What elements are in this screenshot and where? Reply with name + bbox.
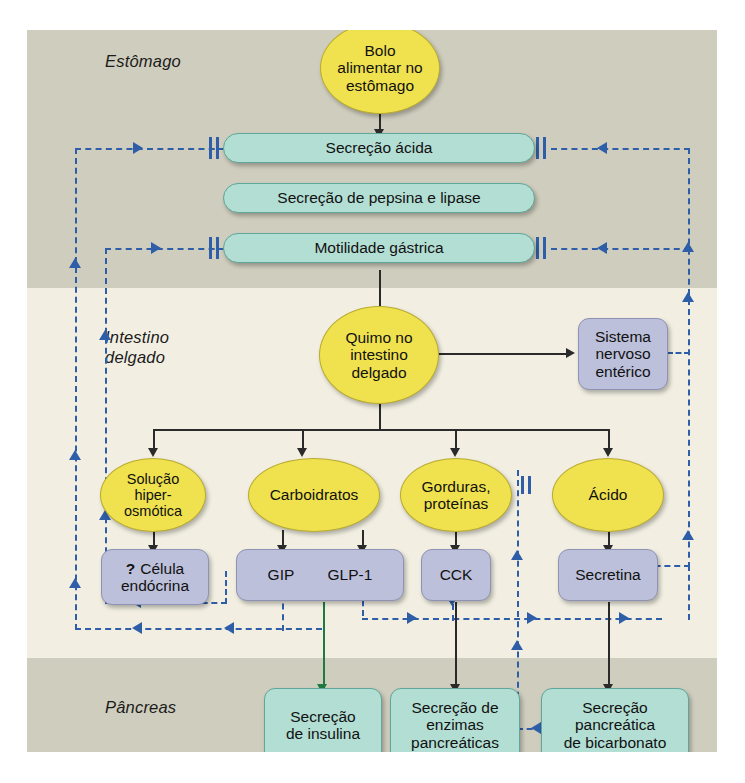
node-bolo-line3: estômago [346,77,414,94]
arrowhead-branch-acid [603,448,613,457]
node-carboidratos[interactable]: Carboidratos [248,458,380,532]
node-secrecao-acida[interactable]: Secreção ácida [223,133,535,163]
node-gip-label: GIP [268,566,295,583]
node-acido[interactable]: Ácido [552,458,664,532]
feedback-arrow-up-right-2 [682,292,694,302]
band-label-stomach: Estômago [105,52,181,71]
node-quimo-line2: intestino [350,346,408,363]
node-sne-line2: nervoso [595,345,650,362]
inhibition-bar-acid-ellipse [521,476,532,494]
feedback-to-motility [105,248,225,250]
node-bicarbonato-line2: pancreática [575,716,655,733]
feedback-arrow-up-acid-1 [511,550,523,560]
feedback-arrow-left-outer-bottom-2 [224,622,234,634]
feedback-secretina-rail-up [688,460,690,568]
node-bicarbonato-line3: de bicarbonato [564,734,667,751]
feedback-arrow-left-bicarbonate [531,722,541,734]
edge-incretins-to-insulin [323,602,325,688]
band-label-intestine-line1: Intestino [105,328,169,347]
node-incretins-box[interactable]: GIP GLP-1 [236,549,404,601]
node-enzimas-line2: enzimas [426,716,484,733]
node-sistema-nervoso-enterico[interactable]: Sistema nervoso entérico [578,318,668,390]
feedback-sne-stub [667,352,690,354]
inhibition-bar-acid-left [209,137,220,159]
node-solucao-line3: osmótica [124,503,182,519]
arrowhead-chyme-to-sne [566,348,575,358]
node-bicarbonato-line1: Secreção [582,699,647,716]
feedback-arrow-left-outer-bottom-1 [132,622,142,634]
feedback-arrow-up-left-outer-1 [69,258,81,268]
inhibition-bar-motility-left [209,237,220,259]
node-celula-endocrina[interactable]: ? Célula endócrina [101,549,209,605]
node-insulina-line2: de insulina [286,725,360,742]
feedback-arrow-right-mid-3 [619,612,629,624]
node-secrecao-acida-label: Secreção ácida [326,139,433,156]
node-secretina-label: Secretina [575,566,640,583]
node-glp1-label: GLP-1 [328,566,373,583]
inhibition-bar-motility-right [536,237,547,259]
node-enzimas-line3: pancreáticas [411,734,499,751]
node-bolo-line2: alimentar no [337,59,422,76]
feedback-arrow-up-left-outer-2 [69,450,81,460]
figure-canvas: Estômago Intestino delgado Pâncreas [0,0,745,783]
arrowhead-branch-carbs [297,448,307,457]
node-bolo-line1: Bolo [364,42,395,59]
node-cck-label: CCK [440,566,473,583]
edge-chyme-to-bus [379,404,381,430]
node-secrecao-enzimas[interactable]: Secreção de enzimas pancreáticas [390,688,520,752]
node-gorduras-line2: proteínas [424,495,489,512]
feedback-arrow-up-acid-2 [511,640,523,650]
band-label-intestine-line2: delgado [105,348,165,367]
feedback-arrow-right-acid [133,142,143,154]
inhibition-bar-acid-right [536,137,547,159]
feedback-right-to-acid [551,148,690,150]
node-quimo-intestino[interactable]: Quimo no intestino delgado [319,306,439,404]
feedback-rail-acid-inhibition [517,470,519,728]
feedback-arrow-up-left-inner-1 [99,330,111,340]
edge-secretina-to-bicarbonate [608,602,610,688]
edge-chyme-to-sne [438,353,569,355]
node-enzimas-line1: Secreção de [411,699,498,716]
node-cck[interactable]: CCK [421,549,491,601]
node-motilidade-gastrica[interactable]: Motilidade gástrica [223,233,535,263]
node-secretina[interactable]: Secretina [558,549,658,601]
node-gorduras-line1: Gorduras, [422,478,491,495]
band-label-pancreas: Pâncreas [105,698,176,717]
feedback-secretina-rail-down [688,565,690,620]
feedback-arrow-up-secretina [682,530,694,540]
node-quimo-line1: Quimo no [345,329,412,346]
feedback-rail-left-outer-bottom [75,628,322,630]
node-secrecao-bicarbonato[interactable]: Secreção pancreática de bicarbonato [541,688,689,752]
node-solucao-hiperosmotica[interactable]: Solução hiper- osmótica [100,458,206,532]
node-secrecao-insulina[interactable]: Secreção de insulina [264,688,382,752]
feedback-arrow-right-motility [151,242,161,254]
node-celula-endocrina-line2: endócrina [121,577,189,594]
node-gorduras-proteinas[interactable]: Gorduras, proteínas [400,458,512,532]
node-celula-endocrina-question-mark: ? [126,560,135,577]
node-sne-line1: Sistema [595,328,651,345]
feedback-arrow-right-mid-1 [407,612,417,624]
feedback-arrow-up-right-1 [682,242,694,252]
feedback-right-to-motility [551,248,690,250]
feedback-arrow-left-right-motility [597,242,607,254]
arrowhead-branch-solution [148,448,158,457]
arrowhead-branch-fats [450,448,460,457]
node-solucao-line1: Solução [127,471,179,487]
feedback-rail-left-outer [75,148,77,630]
branch-bus-horizontal [153,429,609,431]
node-solucao-line2: hiper- [134,487,171,503]
feedback-to-acid-secretion [75,148,225,150]
digestion-control-diagram: Estômago Intestino delgado Pâncreas [27,30,717,752]
feedback-arrow-left-right-acid [597,142,607,154]
node-celula-endocrina-line1: Célula [140,560,184,577]
node-motilidade-label: Motilidade gástrica [314,239,443,256]
node-acido-label: Ácido [589,486,628,503]
feedback-rail-right [688,148,690,466]
edge-cck-to-enzymes [455,602,457,688]
node-carboidratos-label: Carboidratos [270,486,359,503]
node-pepsina-lipase-label: Secreção de pepsina e lipase [277,189,480,206]
node-pepsina-lipase[interactable]: Secreção de pepsina e lipase [223,183,535,213]
feedback-drop-endocrine-cell [225,571,227,604]
node-sne-line3: entérico [595,363,650,380]
feedback-arrow-up-left-outer-3 [69,578,81,588]
